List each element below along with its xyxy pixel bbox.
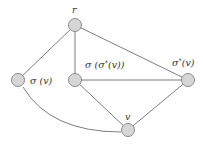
node-sigma-v[interactable] xyxy=(12,74,25,87)
node-r[interactable] xyxy=(69,19,82,32)
node-v[interactable] xyxy=(122,124,135,137)
label-r: r xyxy=(72,4,78,15)
edge-r-sigma-v xyxy=(18,25,75,80)
label-sigma-sigmastar-v: σ (σ*(v)) xyxy=(85,59,125,70)
graph-diagram: r σ (v) σ (σ*(v)) σ*(v) v xyxy=(0,0,203,145)
label-v: v xyxy=(125,111,131,122)
label-sigmastar-v: σ*(v) xyxy=(172,57,195,68)
label-sigma-v: σ (v) xyxy=(30,75,53,86)
node-sigmastar-v[interactable] xyxy=(182,74,195,87)
labels: r σ (v) σ (σ*(v)) σ*(v) v xyxy=(30,4,195,122)
edge-r-sigmastar-v xyxy=(75,25,188,80)
node-sigma-sigmastar-v[interactable] xyxy=(69,74,82,87)
edge-sigmastar-v-v xyxy=(128,80,188,130)
edge-sigma-sigmastar-v-v xyxy=(75,80,128,130)
